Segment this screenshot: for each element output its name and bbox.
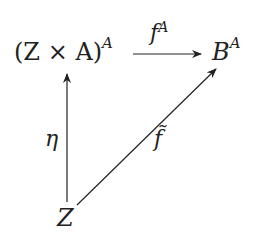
node-z: Z	[57, 206, 74, 230]
label-text: f̃	[154, 126, 162, 151]
label-base: f	[150, 20, 158, 45]
diagonal-arrow	[77, 69, 216, 205]
label-f-tilde: f̃	[154, 128, 162, 150]
node-exponent: A	[102, 34, 113, 52]
node-base: B	[212, 38, 230, 66]
node-base: Z	[57, 204, 74, 232]
label-eta: η	[45, 128, 58, 150]
label-exponent: A	[158, 19, 168, 35]
commutative-diagram: (Z × A)A BA Z fA η f̃	[0, 0, 262, 243]
node-base: (Z × A)	[14, 38, 102, 66]
node-b-power-a: BA	[212, 40, 240, 64]
node-z-times-a-power-a: (Z × A)A	[14, 40, 113, 64]
label-text: η	[45, 126, 58, 151]
node-exponent: A	[230, 34, 241, 52]
label-f-power-a: fA	[150, 22, 168, 44]
arrows-layer	[0, 0, 262, 243]
